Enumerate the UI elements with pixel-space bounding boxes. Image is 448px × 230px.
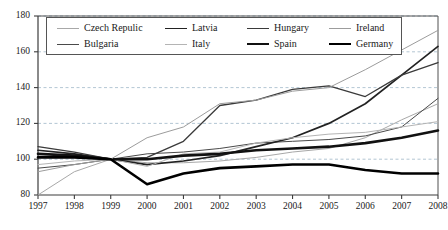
legend-swatch-icon (247, 28, 269, 29)
legend-swatch-icon (57, 44, 79, 45)
x-tick-label: 2007 (385, 201, 419, 211)
y-tick-label: 160 (4, 46, 30, 56)
x-tick-label: 2001 (166, 201, 200, 211)
legend-label: Hungary (274, 20, 309, 36)
x-tick-label: 2000 (130, 201, 164, 211)
x-tick-label: 2004 (276, 201, 310, 211)
legend-swatch-icon (247, 43, 269, 45)
legend-swatch-icon (165, 28, 187, 29)
legend-swatch-icon (165, 44, 187, 45)
legend-swatch-icon (329, 28, 351, 29)
series-line-czech-repulic (38, 104, 438, 195)
x-tick-label: 1999 (94, 201, 128, 211)
y-tick-label: 100 (4, 153, 30, 163)
legend-entry-italy[interactable]: Italy (165, 36, 210, 52)
legend-label: Italy (192, 36, 210, 52)
series-line-spain (38, 131, 438, 160)
chart-legend: Czech RepulicLatviaHungaryIrelandBulgari… (46, 17, 402, 55)
legend-label: Latvia (192, 20, 218, 36)
legend-entry-spain[interactable]: Spain (247, 36, 297, 52)
legend-label: Czech Repulic (84, 20, 143, 36)
y-tick-label: 140 (4, 82, 30, 92)
legend-label: Spain (274, 36, 297, 52)
legend-row: Czech RepulicLatviaHungaryIreland (51, 20, 397, 36)
legend-entry-germany[interactable]: Germany (329, 36, 393, 52)
legend-entry-bulgaria[interactable]: Bulgaria (57, 36, 118, 52)
x-tick-label: 1998 (57, 201, 91, 211)
legend-entry-hungary[interactable]: Hungary (247, 20, 309, 36)
y-tick-label: 180 (4, 10, 30, 20)
x-tick-label: 2003 (239, 201, 273, 211)
y-tick-label: 120 (4, 117, 30, 127)
legend-label: Bulgaria (84, 36, 118, 52)
chart-figure: 80100120140160180 1997199819992000200120… (0, 0, 448, 230)
legend-swatch-icon (57, 28, 79, 29)
x-tick-label: 2006 (348, 201, 382, 211)
data-series (38, 30, 438, 195)
y-tick-label: 80 (4, 189, 30, 199)
x-tick-label: 2002 (203, 201, 237, 211)
x-tick-label: 1997 (21, 201, 55, 211)
legend-row: BulgariaItalySpainGermany (51, 36, 397, 52)
legend-entry-latvia[interactable]: Latvia (165, 20, 218, 36)
x-tick-label: 2005 (312, 201, 346, 211)
legend-entry-czech-repulic[interactable]: Czech Repulic (57, 20, 143, 36)
legend-label: Germany (356, 36, 393, 52)
legend-entry-ireland[interactable]: Ireland (329, 20, 384, 36)
x-tick-label: 2008 (421, 201, 448, 211)
legend-label: Ireland (356, 20, 384, 36)
legend-swatch-icon (329, 43, 351, 45)
series-line-latvia (38, 46, 438, 164)
series-line-hungary (38, 63, 438, 160)
